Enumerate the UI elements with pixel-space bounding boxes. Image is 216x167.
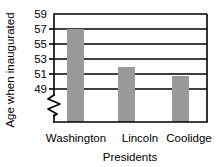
y-tick-label-57: 57: [34, 23, 47, 35]
bar-coolidge: [172, 76, 189, 122]
y-axis-title: Age when inaugurated: [4, 12, 16, 127]
y-tick-label-51: 51: [34, 68, 47, 80]
x-tick-label-coolidge: Coolidge: [166, 132, 211, 144]
x-tick-label-washington: Washington: [46, 132, 106, 144]
x-axis-title: Presidents: [103, 151, 158, 163]
chart-canvas: 59 57 55 53 51 49 Washington Lincoln Coo…: [0, 0, 216, 167]
y-tick-label-55: 55: [34, 38, 47, 50]
bar-washington: [67, 29, 84, 122]
y-tick-labels: 59 57 55 53 51 49: [34, 8, 47, 95]
y-tick-label-53: 53: [34, 53, 47, 65]
bar-chart: 59 57 55 53 51 49 Washington Lincoln Coo…: [0, 0, 216, 167]
bar-lincoln: [118, 67, 135, 122]
y-tick-label-49: 49: [34, 83, 47, 95]
x-tick-label-lincoln: Lincoln: [122, 132, 158, 144]
y-tick-label-59: 59: [34, 8, 47, 20]
x-tick-labels: Washington Lincoln Coolidge: [46, 132, 212, 144]
